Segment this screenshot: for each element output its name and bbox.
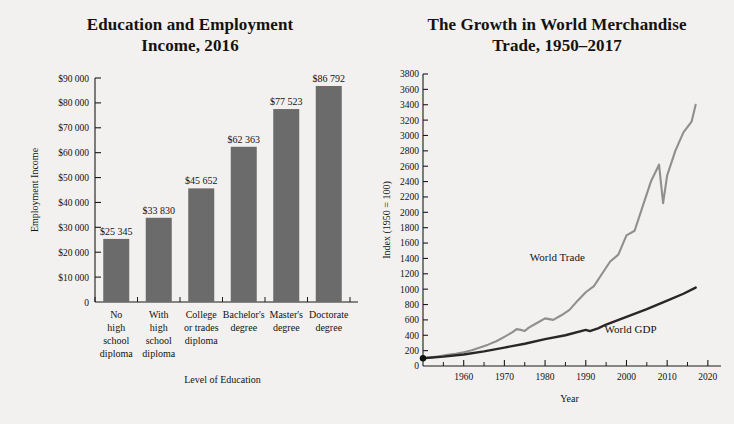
bar-chart-title-line1: Education and Employment	[87, 15, 293, 34]
line-chart-title-line2: Trade, 1950–2017	[380, 35, 734, 56]
line-y-tick-label: 3800	[400, 69, 419, 79]
bar	[103, 239, 129, 302]
bar-chart-title-line2: Income, 2016	[0, 35, 380, 56]
line-y-tick-label: 1400	[400, 254, 419, 264]
bar-value-label: $25 345	[100, 226, 133, 237]
line-y-tick-label: 3400	[400, 100, 419, 110]
bar	[273, 109, 299, 302]
bar-category-label: school	[146, 335, 172, 346]
bar-category-label: Doctorate	[309, 309, 349, 320]
line-y-tick-label: 0	[414, 361, 419, 371]
bar-category-label: diploma	[142, 348, 175, 359]
line-x-tick-label: 1960	[454, 372, 473, 382]
bar	[146, 218, 172, 302]
bar-chart-title: Education and Employment Income, 2016	[0, 14, 380, 56]
line-y-tick-label: 2000	[400, 208, 419, 218]
line-x-tick-label: 1980	[536, 372, 555, 382]
bar-category-label: degree	[230, 322, 257, 333]
line-y-tick-label: 800	[405, 300, 420, 310]
bar-category-label: diploma	[100, 348, 133, 359]
line-y-tick-label: 2600	[400, 162, 419, 172]
bar-y-tick-label: $40 000	[58, 198, 89, 208]
bar	[316, 86, 342, 302]
bar-chart-panel: Education and Employment Income, 2016 0$…	[0, 0, 380, 424]
bar-value-label: $86 792	[313, 73, 346, 84]
series-label-world-gdp: World GDP	[605, 323, 657, 335]
bar-y-tick-label: $20 000	[58, 248, 89, 258]
line-y-tick-label: 3600	[400, 85, 419, 95]
bar-category-label: Bachelor's	[223, 309, 265, 320]
bar	[231, 147, 257, 302]
line-y-tick-label: 1800	[400, 223, 419, 233]
bar-category-label: diploma	[185, 335, 218, 346]
line-chart-panel: The Growth in World Merchandise Trade, 1…	[380, 0, 734, 424]
line-chart-title: The Growth in World Merchandise Trade, 1…	[380, 14, 734, 56]
bar-y-tick-label: $50 000	[58, 173, 89, 183]
bar-chart-svg: 0$10 000$20 000$30 000$40 000$50 000$60 …	[0, 0, 380, 424]
line-y-axis-title: Index (1950 = 100)	[381, 181, 393, 259]
bar-category-label: degree	[315, 322, 342, 333]
bar-category-label: degree	[273, 322, 300, 333]
bar-category-label: or trades	[184, 322, 219, 333]
bar-y-tick-label: 0	[84, 298, 89, 308]
line-x-tick-label: 1990	[576, 372, 595, 382]
line-x-tick-label: 1970	[495, 372, 514, 382]
bar-value-label: $77 523	[270, 96, 303, 107]
bar-value-label: $62 363	[228, 134, 261, 145]
bar-y-tick-label: $80 000	[58, 98, 89, 108]
bar-y-axis-title: Employment Income	[29, 147, 40, 232]
line-y-tick-label: 2800	[400, 146, 419, 156]
line-x-axis-title: Year	[560, 393, 579, 404]
series-line-world-trade	[423, 105, 696, 359]
series-label-world-trade: World Trade	[530, 251, 585, 263]
line-y-tick-label: 3000	[400, 131, 419, 141]
bar-category-label: No	[110, 309, 122, 320]
bar-x-axis-title: Level of Education	[184, 374, 261, 385]
bar-y-tick-label: $30 000	[58, 223, 89, 233]
line-y-tick-label: 600	[405, 315, 420, 325]
origin-marker	[420, 355, 426, 361]
bar-category-label: high	[150, 322, 168, 333]
line-y-tick-label: 2400	[400, 177, 419, 187]
line-y-tick-label: 200	[405, 346, 420, 356]
bar-value-label: $45 652	[185, 175, 218, 186]
line-y-tick-label: 1200	[400, 269, 419, 279]
bar-category-label: With	[149, 309, 169, 320]
line-x-tick-label: 2000	[617, 372, 636, 382]
bar-value-label: $33 830	[143, 205, 176, 216]
line-x-tick-label: 2010	[658, 372, 677, 382]
line-chart-svg: 0200400600800100012001400160018002000220…	[380, 0, 734, 424]
bar-category-label: College	[186, 309, 218, 320]
line-chart-title-line1: The Growth in World Merchandise	[427, 15, 686, 34]
bar-y-tick-label: $70 000	[58, 123, 89, 133]
bar-category-label: school	[103, 335, 129, 346]
bar-category-label: high	[107, 322, 125, 333]
bar	[188, 188, 214, 302]
line-y-tick-label: 1600	[400, 238, 419, 248]
bar-y-tick-label: $60 000	[58, 148, 89, 158]
line-y-tick-label: 1000	[400, 285, 419, 295]
line-y-tick-label: 400	[405, 331, 420, 341]
line-y-tick-label: 3200	[400, 116, 419, 126]
figure-page: Education and Employment Income, 2016 0$…	[0, 0, 734, 424]
line-y-tick-label: 2200	[400, 192, 419, 202]
bar-y-tick-label: $10 000	[58, 273, 89, 283]
bar-category-label: Master's	[270, 309, 304, 320]
line-x-tick-label: 2020	[698, 372, 717, 382]
bar-y-tick-label: $90 000	[58, 74, 89, 84]
